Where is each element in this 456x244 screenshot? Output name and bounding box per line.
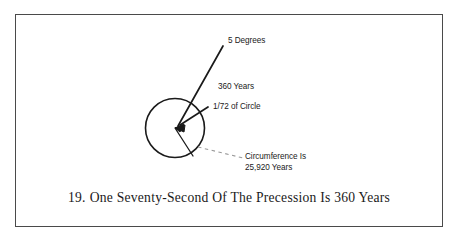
figure-caption: 19.One Seventy-Second Of The Precession … bbox=[15, 190, 443, 206]
label-circumference-line2: 25,920 Years bbox=[245, 162, 306, 173]
label-circumference-line1: Circumference Is bbox=[245, 151, 306, 162]
figure-caption-text: One Seventy-Second Of The Precession Is … bbox=[90, 190, 390, 205]
figure-caption-number: 19. bbox=[68, 190, 86, 205]
label-circumference: Circumference Is 25,920 Years bbox=[245, 151, 306, 173]
label-degrees: 5 Degrees bbox=[228, 35, 265, 46]
label-fraction: 1/72 of Circle bbox=[213, 101, 261, 112]
circumference-dashed-leader bbox=[198, 147, 243, 158]
figure-root: 5 Degrees 360 Years 1/72 of Circle Circu… bbox=[0, 0, 456, 244]
label-years: 360 Years bbox=[218, 81, 254, 92]
